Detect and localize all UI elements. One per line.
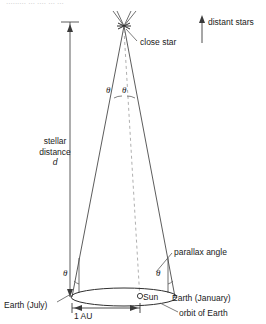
parallax-triangle <box>72 26 175 297</box>
stellar-distance-line1: stellar <box>44 136 67 146</box>
earth-january-label: Earth (January) <box>172 293 231 304</box>
earth-july-label: Earth (July) <box>4 300 47 311</box>
earth-july-leader-line <box>57 294 71 302</box>
sun-circle-icon <box>137 293 142 298</box>
apex-angle-arcs <box>114 96 135 98</box>
close-star-leader-line <box>126 29 137 41</box>
earth-angle-arcs <box>74 281 173 284</box>
stellar-distance-line2: distance <box>39 147 71 157</box>
close-star-label: close star <box>140 37 176 48</box>
up-arrow-icon <box>199 15 205 43</box>
theta-earth-january-label: θ <box>156 268 160 278</box>
theta-apex-right-label: θ <box>122 85 126 95</box>
stellar-distance-label: stellar distance d <box>24 136 86 168</box>
parallax-angle-label: parallax angle <box>174 247 227 258</box>
sight-lines-extended <box>113 11 136 26</box>
theta-apex-left-label: θ <box>106 85 110 95</box>
distant-stars-label: distant stars <box>208 17 254 28</box>
stellar-parallax-figure: ......... ... .... ... ... <box>0 0 266 324</box>
theta-earth-july-label: θ <box>63 268 67 278</box>
orbit-of-earth-label: orbit of Earth <box>179 308 228 319</box>
sun-label: Sun <box>143 292 158 303</box>
stellar-distance-symbol: d <box>53 157 58 167</box>
orbit-of-earth-leader-line <box>160 303 178 312</box>
one-au-label: 1 AU <box>74 311 92 322</box>
